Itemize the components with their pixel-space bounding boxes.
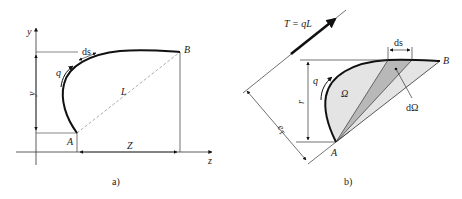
point-B-label-b: B: [443, 55, 449, 66]
point-B-label: B: [184, 44, 190, 55]
y-axis-label: y: [26, 26, 32, 37]
caption-b: b): [344, 176, 352, 188]
domega-label: dΩ: [406, 102, 418, 113]
caption-a: a): [112, 176, 120, 188]
force-label: T = qL: [284, 18, 312, 29]
area-label: Ω: [341, 88, 348, 99]
panel-b: T = qL eT r ds q Ω dΩ A B b): [243, 10, 449, 188]
panel-a: y z y Z L ds q A B a): [16, 26, 212, 188]
q-label: q: [56, 67, 61, 78]
ds-label: ds: [82, 46, 91, 57]
parallel-line-A: [308, 131, 350, 164]
radius-label: r: [295, 100, 306, 104]
q-label-b: q: [313, 75, 318, 86]
shear-flow-diagram: y z y Z L ds q A B a): [0, 0, 462, 199]
point-A-label: A: [66, 136, 74, 147]
ds-label-b: ds: [394, 37, 403, 48]
point-A-label-b: A: [330, 147, 338, 158]
chord-label: L: [120, 86, 127, 97]
eccentricity-label: eT: [274, 122, 290, 138]
z-axis-label: z: [207, 155, 212, 166]
chord-line: [77, 52, 180, 133]
width-label: Z: [127, 140, 133, 151]
height-label: y: [26, 91, 37, 97]
